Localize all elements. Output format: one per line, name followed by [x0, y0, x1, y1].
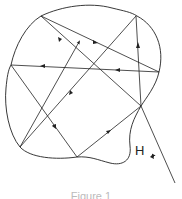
arrow-icon — [93, 40, 98, 44]
closed-boundary-curve — [6, 5, 161, 164]
arrow-icon — [136, 42, 140, 48]
incoming-ray — [141, 106, 175, 183]
arrow-icon — [40, 64, 45, 68]
arrow-icon — [52, 124, 56, 129]
ray-segment — [20, 42, 79, 147]
ray-diagram — [0, 0, 182, 199]
ray-segment — [41, 16, 159, 72]
ray-segment — [20, 16, 136, 147]
arrow-icon — [115, 68, 120, 72]
arrow-icon — [150, 154, 154, 159]
ray-segment — [11, 65, 77, 157]
arrow-icon — [58, 37, 62, 42]
ray-segment — [11, 65, 159, 72]
label-h: H — [135, 143, 144, 158]
figure-caption: Figure 1 — [0, 190, 182, 199]
ray-segment — [41, 16, 141, 106]
